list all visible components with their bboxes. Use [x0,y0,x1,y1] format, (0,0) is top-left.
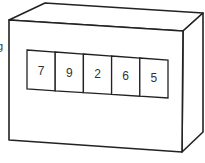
display-digit: 7 [38,64,45,78]
display-digit: 5 [151,71,158,85]
display-digit: 2 [94,67,101,81]
box-side-face [182,13,203,152]
display-digit: 9 [66,66,73,80]
box-diagram: 79265 [0,0,205,163]
display-digit: 6 [122,69,129,83]
